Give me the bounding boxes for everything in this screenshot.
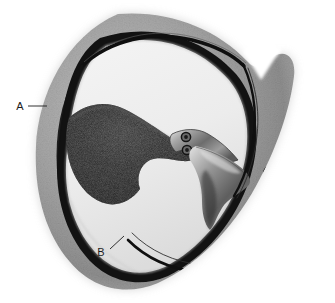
cord-vessel-lumen-lower (185, 148, 189, 152)
cord-vessel-lumen-upper (184, 135, 188, 139)
anatomical-illustration: A B (0, 0, 335, 303)
figure-container: A B (0, 0, 335, 303)
label-a-text: A (16, 100, 24, 112)
membrane-hook-bottom (188, 277, 242, 298)
label-b-text: B (97, 246, 105, 258)
